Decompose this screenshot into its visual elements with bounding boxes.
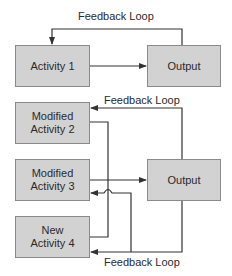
- activity-4-label-line2: Activity 4: [30, 237, 74, 250]
- activity-1-box: Activity 1: [15, 45, 90, 87]
- activity-3-label-line1: Modified: [32, 167, 74, 180]
- modified-activity-2-box: Modified Activity 2: [15, 102, 90, 144]
- arrow-activity4-to-output: [90, 180, 108, 237]
- feedback-loop-top: [52, 29, 182, 45]
- activity-2-label-line1: Modified: [32, 110, 74, 123]
- feedback-loop-middle: [91, 108, 182, 159]
- activity-2-label-line2: Activity 2: [30, 123, 74, 136]
- feedback-loop-label-bottom: Feedback Loop: [104, 256, 180, 268]
- feedback-loop-label-middle: Feedback Loop: [104, 94, 180, 106]
- feedback-loop-bottom: [91, 201, 182, 252]
- output-box-bottom: Output: [147, 159, 221, 201]
- activity-3-label-line2: Activity 3: [30, 180, 74, 193]
- arrow-activity2-to-output: [90, 122, 108, 180]
- output-box-top: Output: [147, 45, 221, 87]
- new-activity-4-box: New Activity 4: [15, 216, 90, 258]
- feedback-loop-label-top: Feedback Loop: [78, 10, 154, 22]
- feedback-branch-activity3: [91, 190, 131, 253]
- output-label-top: Output: [167, 60, 200, 73]
- activity-4-label-line1: New: [41, 224, 63, 237]
- modified-activity-3-box: Modified Activity 3: [15, 159, 90, 201]
- activity-1-label: Activity 1: [30, 60, 74, 73]
- output-label-bottom: Output: [167, 174, 200, 187]
